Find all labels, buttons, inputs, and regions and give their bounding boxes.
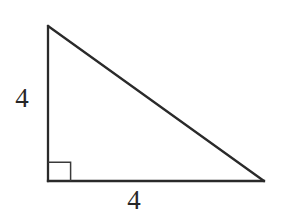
figure-canvas: 4 4 [0, 0, 281, 216]
figure-background [0, 0, 281, 216]
right-triangle-drawing [0, 0, 281, 216]
horizontal-leg-label: 4 [122, 187, 146, 214]
vertical-leg-label: 4 [10, 85, 34, 112]
